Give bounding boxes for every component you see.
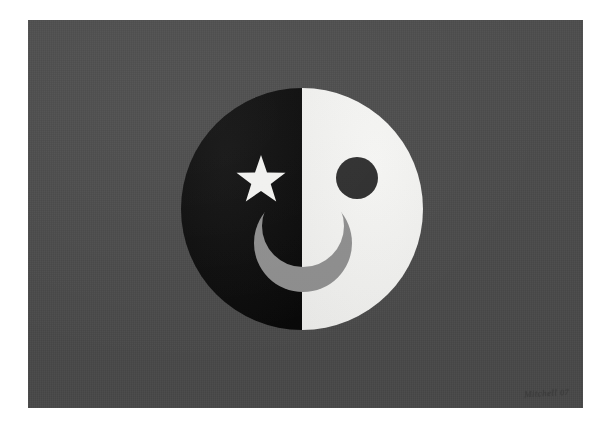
page-canvas: Mitchell07 xyxy=(0,0,612,429)
artwork-panel: Mitchell07 xyxy=(28,20,583,408)
smiley-face-figure xyxy=(28,20,583,408)
signature-name: Mitchell xyxy=(524,387,558,399)
smile-crescent-icon xyxy=(28,20,583,408)
signature-year: 07 xyxy=(560,388,569,397)
